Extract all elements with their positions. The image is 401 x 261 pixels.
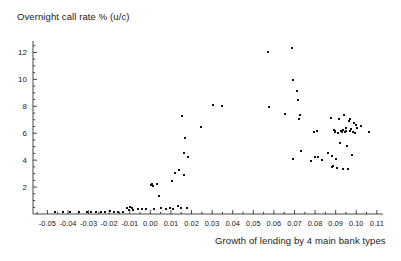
data-point [355, 124, 357, 126]
data-point [347, 168, 349, 170]
data-point [177, 205, 179, 207]
data-point [368, 131, 370, 133]
data-point [267, 51, 269, 53]
data-point [186, 207, 188, 209]
data-point [122, 211, 124, 213]
data-point [316, 130, 318, 132]
data-point [339, 142, 341, 144]
data-point [117, 211, 119, 213]
data-point [297, 99, 299, 101]
x-tick-label: 0.11 [357, 219, 397, 228]
data-point [317, 156, 319, 158]
data-point [62, 211, 64, 213]
data-point [187, 156, 189, 158]
data-point [90, 211, 92, 213]
data-point [145, 208, 147, 210]
data-point [181, 115, 183, 117]
data-point [169, 207, 171, 209]
data-point [342, 168, 344, 170]
y-tick-label: 2 [7, 183, 27, 192]
data-point [291, 47, 293, 49]
data-point [137, 208, 139, 210]
data-point [310, 160, 312, 162]
data-point [343, 114, 345, 116]
data-point [335, 158, 337, 160]
data-point [360, 125, 362, 127]
data-point [346, 145, 348, 147]
data-point [330, 117, 332, 119]
data-point [292, 79, 294, 81]
data-point [351, 154, 353, 156]
data-point [172, 208, 174, 210]
data-point [183, 152, 185, 154]
data-point [332, 165, 334, 167]
data-point [165, 208, 167, 210]
data-point [69, 211, 71, 213]
data-point [299, 114, 301, 116]
y-tick-label: 8 [7, 102, 27, 111]
data-point [171, 180, 173, 182]
data-point [156, 183, 158, 185]
data-point [200, 126, 202, 128]
data-point [298, 118, 300, 120]
data-point [54, 211, 56, 213]
data-point [174, 172, 176, 174]
data-point [321, 159, 323, 161]
data-point [184, 137, 186, 139]
data-point [348, 120, 350, 122]
y-tick-label: 10 [7, 75, 27, 84]
data-point [113, 211, 115, 213]
scatter-chart: Overnight call rate % (u/c) 24681012 -0.… [0, 0, 401, 261]
data-point [268, 106, 270, 108]
y-tick-label: 6 [7, 129, 27, 138]
data-point [331, 155, 333, 157]
data-point [212, 104, 214, 106]
data-point [100, 211, 102, 213]
data-point [327, 152, 329, 154]
data-point [345, 127, 347, 129]
data-point [78, 211, 80, 213]
data-point [95, 211, 97, 213]
data-point [160, 207, 162, 209]
data-point [334, 130, 336, 132]
data-point [141, 208, 143, 210]
data-point [178, 169, 180, 171]
data-point [104, 211, 106, 213]
data-point [183, 174, 185, 176]
data-point [350, 128, 352, 130]
data-point [349, 118, 351, 120]
data-point [296, 90, 298, 92]
data-point [109, 210, 111, 212]
data-point [338, 118, 340, 120]
y-tick-label: 12 [7, 48, 27, 57]
x-axis-title: Growth of lending by 4 main bank types [215, 235, 386, 246]
data-point [86, 211, 88, 213]
data-point [336, 167, 338, 169]
data-point [284, 113, 286, 115]
data-point [300, 150, 302, 152]
data-point [153, 208, 155, 210]
data-point [221, 105, 223, 107]
y-tick-label: 4 [7, 156, 27, 165]
data-point [345, 130, 347, 132]
plot-area: 24681012 -0.05-0.04-0.03-0.02-0.010.000.… [0, 0, 401, 261]
data-point [128, 209, 130, 211]
data-point [132, 209, 134, 211]
data-point [158, 195, 160, 197]
data-point [354, 132, 356, 134]
data-point [152, 185, 154, 187]
data-point [180, 207, 182, 209]
data-point [356, 127, 358, 129]
data-point [292, 158, 294, 160]
